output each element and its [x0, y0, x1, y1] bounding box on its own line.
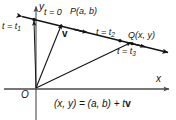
vector-line-diagram: y x O t = t1 t = 0 P(a, b) v t = t2 Q(x,… — [0, 0, 176, 120]
point-q-label: Q(x, y) — [128, 31, 155, 40]
label-t-equals-t3: t = t3 — [117, 47, 136, 56]
origin-label: O — [21, 90, 29, 100]
label-t-equals-t2: t = t2 — [96, 28, 115, 37]
vector-v-label: v — [62, 29, 68, 39]
equation-lhs: (x, y) = (a, b) + t — [54, 98, 125, 109]
position-vector-op — [36, 25, 62, 89]
label-t1-text: t = t — [2, 21, 17, 31]
x-axis-label: x — [156, 74, 161, 84]
label-t2-subscript: 2 — [111, 31, 115, 38]
label-t3-subscript: 3 — [132, 50, 136, 57]
label-t-equals-zero: t = 0 — [44, 8, 62, 17]
label-t1-subscript: 1 — [17, 25, 21, 32]
label-t-equals-t1: t = t1 — [2, 22, 21, 31]
point-p-label: P(a, b) — [70, 7, 97, 16]
parametric-equation: (x, y) = (a, b) + tv — [54, 99, 131, 109]
label-t3-text: t = t — [117, 46, 132, 56]
label-t2-text: t = t — [96, 27, 111, 37]
equation-vector-v: v — [125, 98, 131, 109]
